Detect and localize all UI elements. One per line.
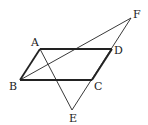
segment-AB — [20, 49, 40, 80]
label-C: C — [94, 80, 102, 93]
label-F: F — [133, 8, 141, 21]
label-B: B — [9, 80, 17, 93]
label-E: E — [69, 112, 77, 125]
segment-FE — [72, 18, 131, 110]
label-D: D — [114, 44, 123, 57]
segment-DC — [92, 49, 112, 80]
geometry-diagram: A B C D E F — [0, 0, 148, 125]
label-A: A — [30, 36, 40, 49]
